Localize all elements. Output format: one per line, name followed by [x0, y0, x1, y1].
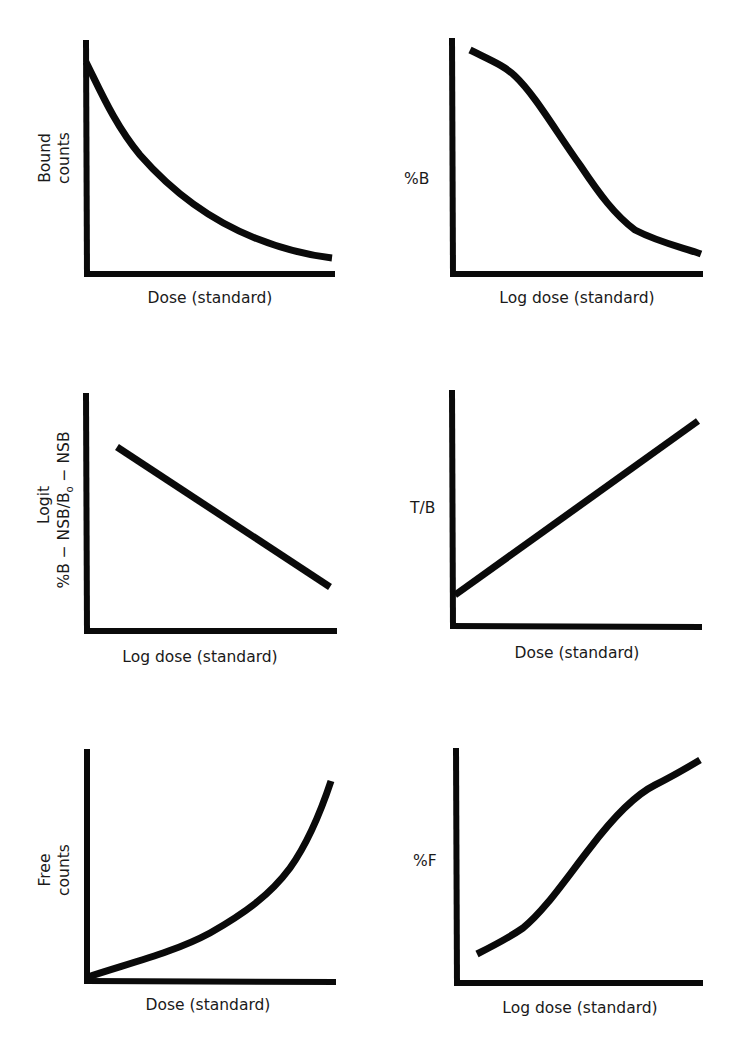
- decay-curve: [86, 62, 332, 258]
- x-axis-label: Log dose (standard): [502, 999, 657, 1017]
- growth-curve: [88, 781, 331, 977]
- y-axis-label: %F: [413, 852, 437, 870]
- y-axis-label-line1: Bound: [36, 133, 54, 183]
- y-axis: [452, 38, 453, 276]
- linear-line: [455, 421, 698, 595]
- y-axis-label-line1: Free: [36, 854, 54, 887]
- y-axis-label-line2: counts: [55, 844, 73, 896]
- x-axis-label: Log dose (standard): [122, 648, 277, 666]
- y-axis-label: %B: [404, 170, 429, 188]
- y-axis-label-line2: counts: [55, 132, 73, 184]
- panel-logit: Log dose (standard) Logit %B − NSB/Bo − …: [35, 393, 337, 666]
- figure-canvas: Dose (standard) Bound counts Log dose (s…: [0, 0, 737, 1046]
- panel-percent-bound: Log dose (standard) %B: [404, 38, 703, 307]
- y-axis: [452, 390, 453, 628]
- x-axis: [85, 981, 336, 982]
- y-axis-label-line2: %B − NSB/Bo − NSB: [55, 431, 75, 588]
- panel-percent-free: Log dose (standard) %F: [413, 748, 703, 1017]
- x-axis-label: Dose (standard): [146, 996, 271, 1014]
- y-axis: [86, 40, 87, 275]
- logit-denominator: − NSB: [55, 431, 73, 486]
- y-axis: [86, 393, 87, 632]
- x-axis: [450, 626, 702, 627]
- panel-free-counts: Dose (standard) Free counts: [36, 749, 336, 1014]
- logit-line: [117, 447, 330, 587]
- x-axis-label: Log dose (standard): [499, 289, 654, 307]
- sigmoid-curve: [470, 50, 701, 254]
- logit-numerator: %B − NSB/B: [55, 492, 73, 588]
- y-axis: [456, 748, 457, 985]
- x-axis-label: Dose (standard): [148, 289, 273, 307]
- x-axis-label: Dose (standard): [515, 644, 640, 662]
- sigmoid-curve: [477, 760, 700, 954]
- y-axis-label-line1: Logit: [35, 486, 53, 524]
- y-axis-label: T/B: [409, 499, 435, 517]
- panel-total-over-bound: Dose (standard) T/B: [409, 390, 702, 662]
- panel-bound-counts: Dose (standard) Bound counts: [36, 40, 335, 307]
